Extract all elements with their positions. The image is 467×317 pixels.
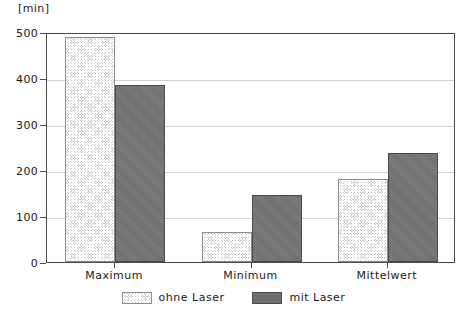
y-axis-tick-label: 200 — [2, 165, 38, 178]
bar-mittelwert-ohne-laser — [338, 179, 388, 262]
y-axis-tick-label: 400 — [2, 73, 38, 86]
legend: ohne Lasermit Laser — [0, 291, 467, 304]
y-axis-tick-label: 300 — [2, 119, 38, 132]
y-axis-tick-label: 100 — [2, 211, 38, 224]
bar-mittelwert-mit-laser — [388, 153, 438, 262]
bar-maximum-ohne-laser — [65, 37, 115, 262]
x-axis-label-mittelwert: Mittelwert — [357, 269, 418, 282]
bar-minimum-ohne-laser — [202, 232, 252, 262]
plot-area — [46, 33, 455, 263]
legend-entry-ohne-laser: ohne Laser — [122, 291, 225, 304]
y-axis-tick — [40, 263, 46, 264]
legend-swatch-mit-laser — [252, 292, 282, 304]
legend-entry-mit-laser: mit Laser — [252, 291, 345, 304]
y-axis-tick-label: 0 — [2, 257, 38, 270]
y-axis-tick-label: 500 — [2, 27, 38, 40]
x-axis-label-minimum: Minimum — [223, 269, 277, 282]
bar-maximum-mit-laser — [115, 85, 165, 262]
bar-minimum-mit-laser — [252, 195, 302, 262]
legend-swatch-ohne-laser — [122, 292, 152, 304]
x-axis-tick — [251, 263, 252, 268]
x-axis-tick — [114, 263, 115, 268]
bar-chart: [min] 0100200300400500 MaximumMinimumMit… — [0, 0, 467, 317]
y-axis-unit-label: [min] — [18, 2, 49, 15]
legend-label: mit Laser — [289, 291, 345, 304]
x-axis-label-maximum: Maximum — [85, 269, 143, 282]
x-axis-tick — [387, 263, 388, 268]
legend-label: ohne Laser — [159, 291, 225, 304]
